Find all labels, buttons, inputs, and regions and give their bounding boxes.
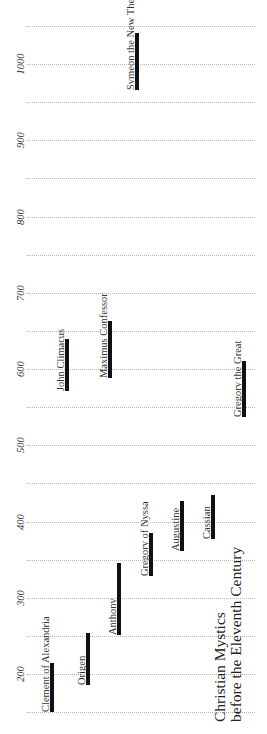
timeline-chart: 2003004005006007008009001000 Clement of … — [0, 0, 267, 734]
gridline — [27, 217, 255, 218]
gridline — [27, 293, 255, 294]
gridline — [27, 102, 255, 103]
gridline — [27, 26, 255, 27]
gridline — [27, 178, 255, 179]
gridline — [27, 598, 255, 599]
gridline — [27, 407, 255, 408]
gridline — [27, 140, 255, 141]
gridline — [27, 445, 255, 446]
gridline — [27, 64, 255, 65]
gridline — [27, 483, 255, 484]
gridline — [27, 255, 255, 256]
